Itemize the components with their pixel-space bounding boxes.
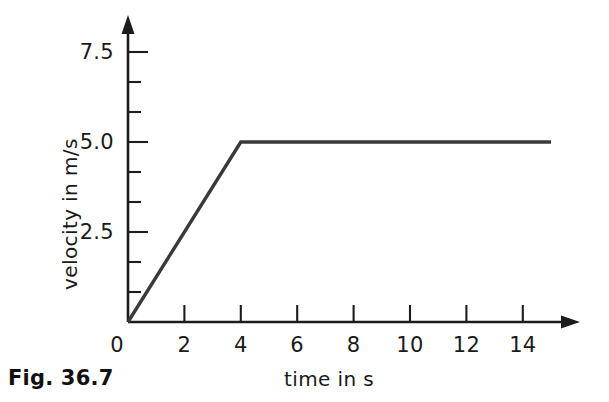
figure-container: 7.5 5.0 2.5 0 2 4 6 8 10 12 14 velocity …	[0, 0, 609, 402]
x-tick-label-2: 2	[178, 335, 192, 356]
x-tick-label-12: 12	[453, 335, 480, 356]
figure-caption: Fig. 36.7	[8, 366, 113, 390]
x-axis-ticks	[184, 305, 522, 322]
y-axis-ticks	[128, 52, 148, 292]
x-tick-label-14: 14	[509, 335, 536, 356]
y-axis-arrow-icon	[122, 15, 135, 34]
x-tick-label-6: 6	[290, 335, 304, 356]
x-tick-label-4: 4	[234, 335, 248, 356]
x-axis-title: time in s	[284, 367, 374, 391]
y-axis	[122, 15, 135, 322]
y-axis-title: velocity in m/s	[58, 138, 82, 290]
x-tick-label-8: 8	[347, 335, 361, 356]
y-tick-label-7-5: 7.5	[60, 42, 114, 63]
x-tick-label-10: 10	[396, 335, 423, 356]
series-line-velocity	[128, 142, 551, 322]
x-tick-label-0: 0	[110, 335, 124, 356]
x-axis-arrow-icon	[561, 316, 580, 329]
